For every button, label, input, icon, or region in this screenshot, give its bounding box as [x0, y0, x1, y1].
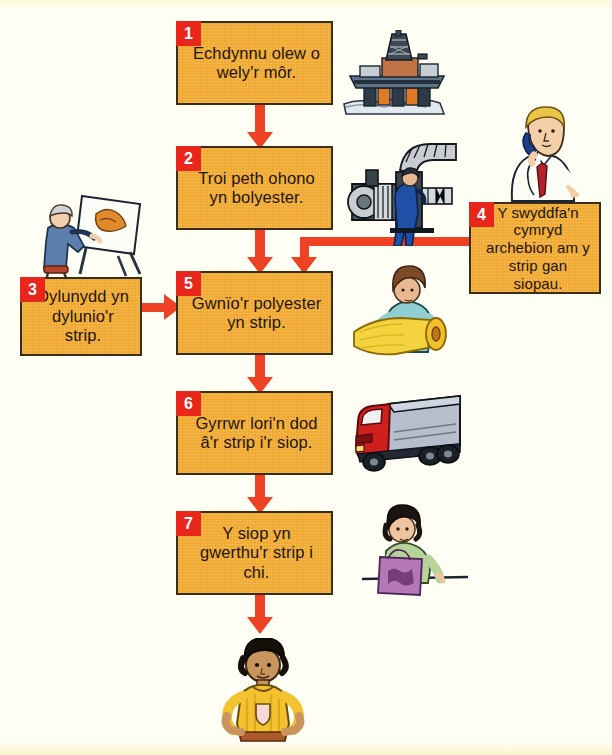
- step-number-badge-3: 3: [20, 277, 45, 302]
- arrow-step7-to-final: [247, 617, 273, 634]
- flow-step-4[interactable]: 4 Y swyddfa'n cymryd archebion am y stri…: [469, 202, 601, 294]
- flow-step-7[interactable]: 7 Y siop yn gwerthu'r strip i chi.: [176, 511, 333, 595]
- woman-with-fabric-roll-icon: [352, 262, 474, 364]
- step-number-badge-7: 7: [176, 511, 201, 536]
- flow-step-3[interactable]: 3 Dylunydd yn dylunio'r strip.: [20, 277, 142, 356]
- boy-wearing-strip-icon: [215, 638, 311, 750]
- step-text-5: Gwnïo'r polyester yn strip.: [178, 292, 331, 335]
- step-number-badge-6: 6: [176, 391, 201, 416]
- step-number-badge-2: 2: [176, 146, 201, 171]
- shop-assistant-with-bag-icon: [358, 503, 474, 607]
- flow-step-6[interactable]: 6 Gyrrwr lori'n dod â'r strip i'r siop.: [176, 391, 333, 475]
- step-text-2: Troi peth ohono yn bolyester.: [178, 167, 331, 210]
- flow-step-5[interactable]: 5 Gwnïo'r polyester yn strip.: [176, 271, 333, 355]
- step-number-badge-1: 1: [176, 21, 201, 46]
- step-number-badge-5: 5: [176, 271, 201, 296]
- step-text-1: Echdynnu olew o wely'r môr.: [178, 42, 331, 85]
- step-number-badge-4: 4: [469, 202, 494, 227]
- office-worker-on-phone-icon: [490, 105, 598, 205]
- flowchart-canvas: 1 Echdynnu olew o wely'r môr.: [0, 0, 612, 755]
- step-text-6: Gyrrwr lori'n dod â'r strip i'r siop.: [178, 412, 331, 455]
- designer-at-drawing-board-icon: [34, 188, 150, 280]
- oil-rig-icon: [340, 30, 452, 118]
- flow-step-1[interactable]: 1 Echdynnu olew o wely'r môr.: [176, 21, 333, 105]
- delivery-lorry-icon: [344, 390, 466, 482]
- flow-step-2[interactable]: 2 Troi peth ohono yn bolyester.: [176, 146, 333, 230]
- factory-machine-worker-icon: [338, 140, 460, 246]
